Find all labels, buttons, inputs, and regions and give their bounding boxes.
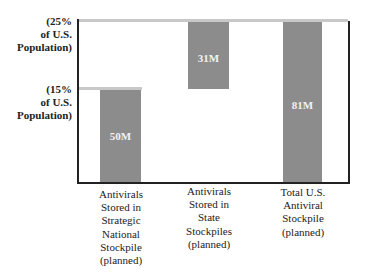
y-label-line: Population) — [17, 41, 72, 54]
y-label-line: of U.S. — [17, 96, 72, 109]
x-label-state-stockpiles: Antivirals Stored in State Stockpiles (p… — [164, 185, 254, 251]
x-label-line: (planned) — [258, 226, 348, 239]
x-label-line: Stored in — [164, 198, 254, 211]
x-label-line: Stockpile — [76, 241, 166, 254]
x-label-strategic-national-stockpile: Antivirals Stored in Strategic National … — [76, 188, 166, 267]
bar-state-stockpiles: 31M — [188, 22, 229, 89]
bar-strategic-national-stockpile: 50M — [100, 90, 141, 182]
bar-value-label: 81M — [283, 99, 322, 111]
x-label-line: National — [76, 228, 166, 241]
x-label-line: Stockpiles — [164, 225, 254, 238]
x-label-line: Antiviral — [258, 199, 348, 212]
x-label-line: Antivirals — [76, 188, 166, 201]
y-label-25-percent: (25% of U.S. Population) — [17, 15, 72, 54]
bar-value-label: 31M — [188, 52, 229, 64]
x-axis-line — [77, 182, 350, 184]
y-axis-line — [77, 19, 79, 184]
x-label-line: Stockpile — [258, 212, 348, 225]
x-label-total-us-stockpile: Total U.S. Antiviral Stockpile (planned) — [258, 186, 348, 239]
y-label-line: of U.S. — [17, 28, 72, 41]
y-label-line: (15% — [17, 83, 72, 96]
x-label-line: (planned) — [76, 254, 166, 267]
bar-value-label: 50M — [100, 130, 141, 142]
x-label-line: Total U.S. — [258, 186, 348, 199]
bar-total-us-stockpile: 81M — [283, 22, 322, 182]
y-label-15-percent: (15% of U.S. Population) — [17, 83, 72, 122]
y-label-line: (25% — [17, 15, 72, 28]
right-frame-line — [348, 21, 350, 183]
x-label-line: Antivirals — [164, 185, 254, 198]
y-label-line: Population) — [17, 109, 72, 122]
x-label-line: Stored in — [76, 201, 166, 214]
x-label-line: (planned) — [164, 238, 254, 251]
x-label-line: State — [164, 211, 254, 224]
x-label-line: Strategic — [76, 214, 166, 227]
